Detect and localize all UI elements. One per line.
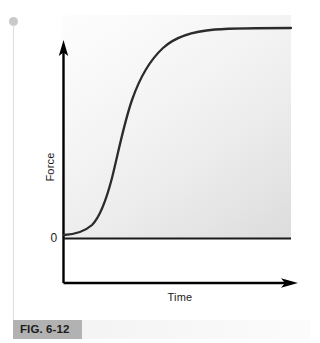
y-axis-label: Force [44,152,56,181]
x-axis-label: Time [168,291,193,303]
figure-container: Force Time 0 FIG. 6-12 [0,0,320,343]
figure-caption: FIG. 6-12 [20,323,69,335]
origin-tick-label: 0 [51,231,58,245]
force-curve [64,28,291,235]
